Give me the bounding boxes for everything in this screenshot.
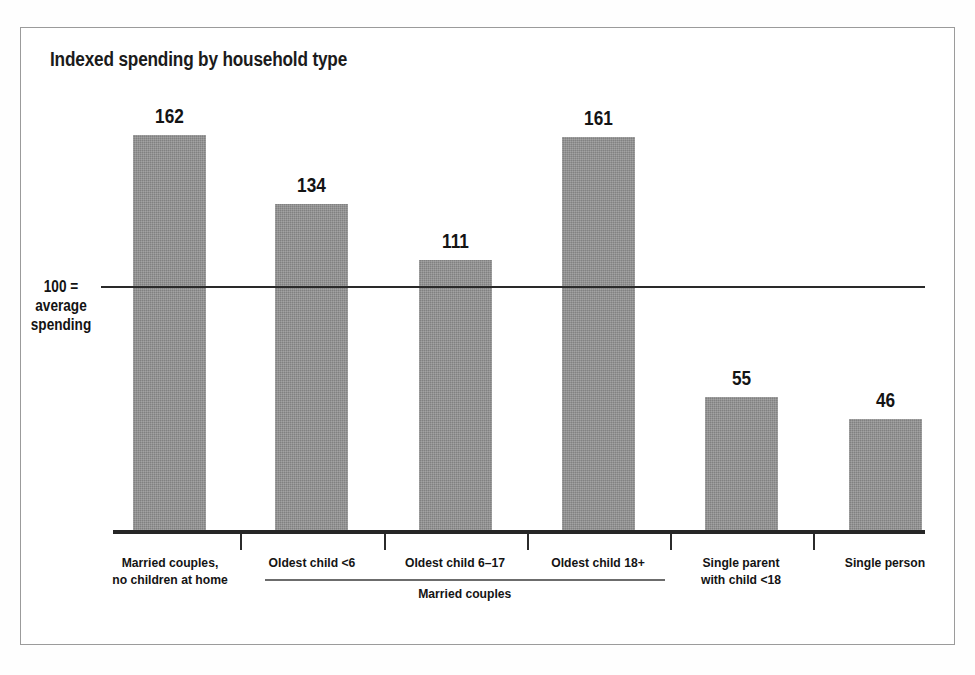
reference-line-label-line-1: 100 =	[28, 277, 94, 296]
plot-area: 162 134 111 161 55 46 100 = average spen…	[0, 0, 975, 675]
axis-tick	[527, 534, 529, 550]
category-label-line: no children at home	[103, 571, 236, 588]
bar-single-person	[849, 419, 922, 532]
bar-value-label: 134	[273, 173, 349, 197]
category-label-oldest-child-18-plus: Oldest child 18+	[527, 554, 669, 571]
reference-line-label-line-2: average	[28, 296, 94, 315]
group-bracket-line	[265, 579, 665, 581]
bar-value-label: 55	[703, 366, 779, 390]
reference-line-connector	[101, 286, 131, 288]
category-label-married-no-children: Married couples, no children at home	[96, 554, 244, 588]
bar-married-no-children	[133, 135, 206, 532]
x-axis-baseline	[113, 530, 925, 534]
reference-line-label-line-3: spending	[28, 315, 94, 334]
bar-oldest-child-6-17	[419, 260, 492, 532]
category-label-line: Oldest child <6	[248, 554, 376, 571]
category-label-single-person: Single person	[814, 554, 956, 571]
category-label-line: Single person	[821, 554, 949, 571]
category-label-oldest-child-6-17: Oldest child 6–17	[384, 554, 526, 571]
axis-tick	[384, 534, 386, 550]
bar-oldest-child-under-6	[275, 204, 348, 532]
category-label-line: Oldest child 18+	[534, 554, 662, 571]
bar-value-label: 111	[417, 229, 493, 253]
category-label-line: with child <18	[677, 571, 805, 588]
bar-value-label: 46	[847, 388, 923, 412]
bar-oldest-child-18-plus	[562, 137, 635, 532]
category-label-oldest-child-under-6: Oldest child <6	[241, 554, 383, 571]
reference-line-100	[113, 286, 925, 288]
category-label-line: Married couples,	[103, 554, 236, 571]
category-label-line: Single parent	[677, 554, 805, 571]
bar-single-parent-child-under-18	[705, 397, 778, 532]
bar-value-label: 162	[131, 104, 207, 128]
bar-value-label: 161	[560, 106, 636, 130]
reference-line-label: 100 = average spending	[22, 277, 100, 334]
category-label-line: Oldest child 6–17	[391, 554, 519, 571]
group-bracket-label: Married couples	[265, 586, 665, 601]
group-bracket-label-text: Married couples	[418, 586, 511, 601]
axis-tick	[813, 534, 815, 550]
axis-tick	[240, 534, 242, 550]
axis-tick	[670, 534, 672, 550]
figure-canvas: Indexed spending by household type 162 1…	[0, 0, 975, 675]
category-label-single-parent: Single parent with child <18	[670, 554, 812, 588]
